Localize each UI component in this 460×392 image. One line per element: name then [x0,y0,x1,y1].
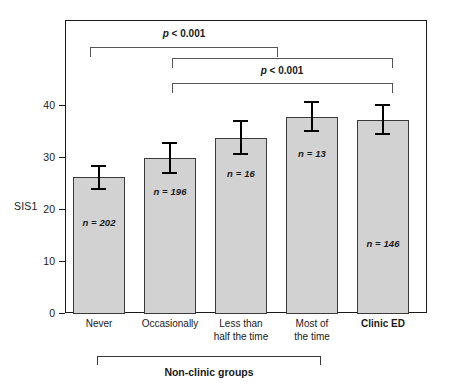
bar-less-than-half-the-time[interactable] [215,138,267,314]
bar-n-label-less-than-half-the-time: n = 16 [215,168,267,179]
x-axis-label-occasionally: Occasionally [132,318,208,331]
bar-n-label-most-of-the-time: n = 13 [286,148,338,159]
error-bar-cap-lower-most-of-the-time [304,130,319,132]
error-bar-cap-upper-less-than-half-the-time [233,120,248,122]
chart-root: SIS1 40 30 20 10 0 n = 202 n = 196 [0,0,460,392]
significance-label-1: p < 0.001 [114,28,254,39]
x-axis-label-clinic-ed: Clinic ED [345,318,421,331]
error-bar-cap-upper-clinic-ed [375,104,390,106]
error-bar-cap-upper-never [91,165,106,167]
bar-clinic-ed[interactable] [357,120,409,314]
error-bar-cap-lower-occasionally [162,172,177,174]
error-bar-cap-upper-most-of-the-time [304,101,319,103]
error-bar-stem-clinic-ed [382,104,384,134]
bar-most-of-the-time[interactable] [286,117,338,314]
error-bar-cap-lower-less-than-half-the-time [233,153,248,155]
bar-never[interactable] [73,177,125,314]
x-axis-label-less-than-half-the-time: Less than half the time [203,318,279,343]
error-bar-stem-never [98,165,100,189]
error-bar-cap-lower-never [91,188,106,190]
bar-occasionally[interactable] [144,158,196,314]
error-bar-stem-occasionally [169,142,171,173]
error-bar-stem-less-than-half-the-time [240,120,242,154]
bar-n-label-clinic-ed: n = 146 [357,238,409,249]
error-bar-stem-most-of-the-time [311,101,313,131]
bar-n-label-occasionally: n = 196 [144,186,196,197]
error-bar-cap-upper-occasionally [162,142,177,144]
x-axis-label-never: Never [63,318,135,331]
non-clinic-group-bracket [97,356,321,365]
x-axis-label-most-of-the-time: Most of the time [274,318,350,343]
significance-bracket-1 [90,47,278,57]
bar-n-label-never: n = 202 [73,217,125,228]
error-bar-cap-lower-clinic-ed [375,133,390,135]
significance-label-2: p < 0.001 [212,65,352,76]
significance-bracket-3 [172,83,393,93]
non-clinic-group-label: Non-clinic groups [97,366,321,378]
